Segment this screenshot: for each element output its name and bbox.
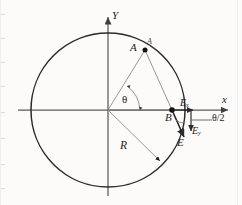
x-axis-label: x [222, 94, 227, 105]
y-axis-label: Y [112, 10, 118, 21]
point-A-label-alt: A [147, 38, 152, 46]
chord-A-to-B [145, 50, 172, 110]
theta-label: θ [122, 94, 127, 105]
point-B-label: B [165, 112, 172, 123]
vector-Ex-label-sub: x [186, 101, 189, 108]
vector-E-label: E [177, 137, 184, 148]
circle-vector-diagram: Y x A A B R θ θ/2 Ex Ey E [0, 0, 242, 205]
vector-Ey-label: Ey [192, 126, 201, 137]
vector-E [172, 110, 184, 137]
theta-angle-arc [127, 86, 140, 110]
diagram-canvas [0, 0, 242, 205]
point-A-label: A [130, 42, 137, 53]
point-A-dot [143, 48, 148, 53]
radius-arrow-R [108, 110, 160, 161]
vector-Ex-label: Ex [180, 98, 189, 109]
radius-label: R [120, 140, 127, 152]
vector-Ey-label-sub: y [198, 129, 201, 136]
half-theta-label: θ/2 [212, 113, 225, 123]
